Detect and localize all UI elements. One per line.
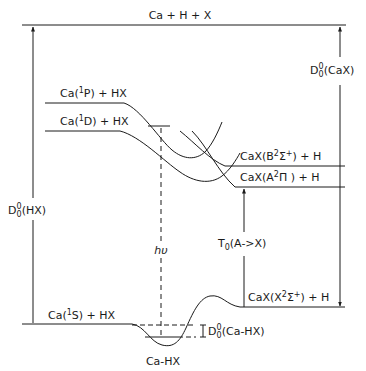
- curve-ground: [22, 296, 345, 346]
- label-ca-1s: Ca(1S) + HX: [48, 308, 116, 322]
- energy-level-diagram: Ca + H + X Ca(1P) + HX Ca(1D) + HX Ca(1S…: [0, 0, 366, 371]
- label-d-cax: D00(CaX): [310, 62, 354, 79]
- label-d-cahx: D00(Ca-HX): [208, 323, 264, 340]
- label-ca-hx-complex: Ca-HX: [146, 355, 181, 368]
- label-cax-a: CaX(A2Π ) + H: [240, 170, 319, 184]
- label-d-hx: D00(HX): [8, 202, 46, 219]
- label-cax-x: CaX(X2Σ+) + H: [248, 290, 329, 304]
- label-ca-h-x: Ca + H + X: [149, 9, 212, 22]
- label-t0: T0(A->X): [217, 237, 266, 252]
- label-ca-1d: Ca(1D) + HX: [60, 114, 129, 128]
- label-ca-1p: Ca(1P) + HX: [60, 86, 127, 100]
- curve-ca-1p: [45, 103, 222, 158]
- label-cax-b: CaX(B2Σ+) + H: [240, 149, 321, 163]
- label-photon: hυ: [154, 244, 167, 257]
